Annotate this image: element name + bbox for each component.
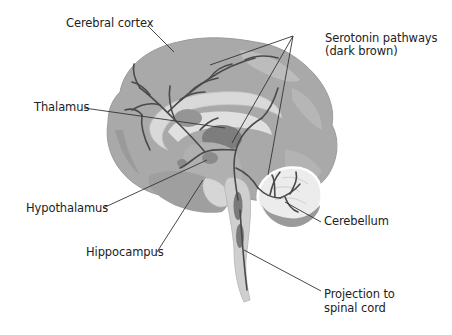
label-projection-to-spinal-cord: Projection to — [324, 288, 395, 301]
label-hippocampus: Hippocampus — [86, 246, 164, 259]
label-hypothalamus: Hypothalamus — [26, 202, 108, 215]
label-projection-to-spinal-cord-sub: spinal cord — [324, 302, 386, 315]
label-cerebellum: Cerebellum — [324, 215, 389, 228]
label-serotonin-pathways-sub: (dark brown) — [325, 45, 398, 58]
hypothalamus-structure — [202, 152, 218, 164]
label-cerebral-cortex: Cerebral cortex — [66, 17, 153, 30]
label-thalamus: Thalamus — [34, 101, 89, 114]
